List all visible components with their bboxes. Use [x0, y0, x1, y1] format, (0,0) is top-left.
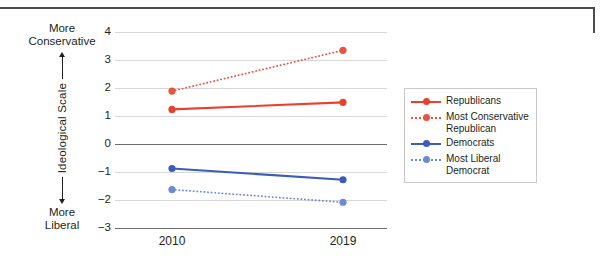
y-axis-tick-labels: 4 3 2 1 0 −1 −2 −3: [85, 32, 111, 229]
series-line: [172, 50, 343, 91]
series-republicans: [168, 99, 346, 113]
data-point[interactable]: [168, 186, 175, 193]
series-most-liberal-democrat: [168, 186, 346, 206]
legend-label-most-liberal-democrat: Most Liberal Democrat: [446, 153, 529, 176]
legend-key-most-conservative-republican: [411, 111, 441, 124]
y-tick-4: 4: [81, 26, 111, 38]
y-tick-neg1: −1: [81, 166, 111, 178]
data-point[interactable]: [168, 88, 175, 95]
data-point[interactable]: [339, 199, 346, 206]
legend-label-most-conservative-republican: Most Conservative Republican: [446, 111, 529, 134]
plot-area: [115, 32, 387, 229]
legend-item-republicans[interactable]: Republicans: [411, 95, 529, 108]
y-tick-3: 3: [81, 54, 111, 66]
legend-item-democrats[interactable]: Democrats: [411, 137, 529, 150]
chart-legend: Republicans Most Conservative Republican…: [404, 88, 537, 183]
series-line: [172, 102, 343, 109]
series-democrats: [168, 165, 346, 183]
y-tick-2: 2: [81, 82, 111, 94]
data-point[interactable]: [339, 176, 346, 183]
series-line: [172, 168, 343, 179]
legend-key-democrats: [411, 137, 441, 150]
axis-line-upper: [62, 57, 63, 79]
arrow-down-icon: [59, 199, 65, 204]
legend-item-most-liberal-democrat[interactable]: Most Liberal Democrat: [411, 153, 529, 176]
data-point[interactable]: [339, 99, 346, 106]
y-tick-0: 0: [81, 138, 111, 150]
y-axis-title: Ideological Scale: [56, 79, 68, 177]
top-divider-rule: [0, 7, 595, 9]
axis-line-lower: [62, 177, 63, 199]
x-tick-2019: 2019: [330, 234, 357, 248]
y-tick-neg2: −2: [81, 194, 111, 206]
legend-item-most-conservative-republican[interactable]: Most Conservative Republican: [411, 111, 529, 134]
legend-key-most-liberal-democrat: [411, 153, 441, 166]
x-tick-2010: 2010: [159, 234, 186, 248]
legend-label-democrats: Democrats: [446, 137, 494, 149]
legend-label-republicans: Republicans: [446, 95, 501, 107]
top-divider-end-cap: [593, 7, 595, 33]
series-lines: [115, 32, 387, 229]
data-point[interactable]: [168, 106, 175, 113]
legend-key-republicans: [411, 95, 441, 108]
y-tick-neg3: −3: [81, 222, 111, 234]
y-tick-1: 1: [81, 110, 111, 122]
series-most-conservative-republican: [168, 47, 346, 95]
data-point[interactable]: [339, 47, 346, 54]
series-line: [172, 190, 343, 203]
data-point[interactable]: [168, 165, 175, 172]
